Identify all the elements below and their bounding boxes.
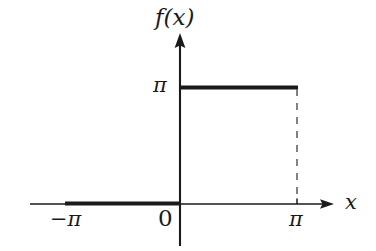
- x-tick-label-pi: π: [289, 209, 303, 230]
- function-graph-figure: f(x) x π −π 0 π: [0, 0, 376, 251]
- x-tick-label-zero: 0: [158, 207, 173, 230]
- y-axis-label: f(x): [155, 6, 194, 29]
- x-axis-label: x: [345, 192, 357, 213]
- y-tick-label-pi: π: [153, 75, 167, 96]
- x-tick-label-neg-pi: −π: [50, 209, 81, 230]
